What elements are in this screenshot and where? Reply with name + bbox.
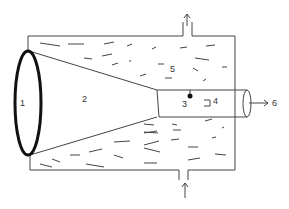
liquid-dash bbox=[180, 47, 187, 48]
liquid-dash bbox=[86, 164, 104, 167]
liquid-dash bbox=[114, 155, 123, 158]
liquid-dash bbox=[127, 44, 132, 46]
liquid-dash bbox=[212, 137, 216, 138]
liquid-dash bbox=[188, 158, 200, 160]
label-3: 3 bbox=[182, 99, 187, 109]
liquid-dash bbox=[172, 124, 177, 125]
label-1: 1 bbox=[20, 98, 25, 108]
liquid-dash bbox=[84, 58, 92, 59]
liquid-dash bbox=[114, 141, 130, 142]
bottom-inlet bbox=[179, 170, 188, 198]
output-arrow bbox=[249, 100, 268, 106]
cone bbox=[29, 51, 159, 155]
liquid-dash bbox=[144, 124, 154, 125]
cone-neck bbox=[157, 90, 159, 117]
liquid-dash bbox=[205, 119, 212, 121]
liquid-dash bbox=[215, 154, 226, 155]
liquid-dashes-lower bbox=[40, 119, 226, 167]
liquid-dash bbox=[152, 47, 156, 49]
liquid-dash bbox=[195, 58, 209, 60]
sensor-bracket bbox=[204, 100, 210, 106]
cone-bottom-edge bbox=[30, 117, 157, 155]
diagram-canvas: 1 2 3 4 5 6 bbox=[0, 0, 289, 209]
liquid-dash bbox=[171, 139, 179, 140]
label-4: 4 bbox=[213, 96, 218, 106]
liquid-dash bbox=[222, 127, 224, 128]
liquid-dash bbox=[144, 148, 160, 152]
top-outlet bbox=[183, 14, 192, 36]
label-5: 5 bbox=[170, 64, 175, 74]
liquid-dash bbox=[40, 43, 60, 46]
liquid-dash bbox=[89, 149, 102, 152]
label-2: 2 bbox=[82, 94, 87, 104]
liquid-dash bbox=[203, 79, 206, 81]
liquid-dash bbox=[193, 68, 198, 71]
liquid-dash bbox=[140, 74, 146, 76]
aperture-ellipse bbox=[15, 51, 41, 155]
probe-dot bbox=[188, 94, 193, 99]
liquid-dash bbox=[40, 164, 52, 167]
cone-top-edge bbox=[29, 51, 157, 90]
liquid-dash bbox=[102, 54, 112, 56]
liquid-dashes-upper bbox=[40, 42, 227, 81]
liquid-dash bbox=[144, 141, 159, 145]
liquid-dash bbox=[52, 159, 60, 162]
vessel bbox=[28, 36, 235, 170]
liquid-dash bbox=[112, 63, 118, 65]
tube bbox=[157, 90, 251, 117]
liquid-dash bbox=[104, 42, 114, 44]
label-6: 6 bbox=[272, 98, 277, 108]
liquid-dash bbox=[206, 45, 215, 46]
